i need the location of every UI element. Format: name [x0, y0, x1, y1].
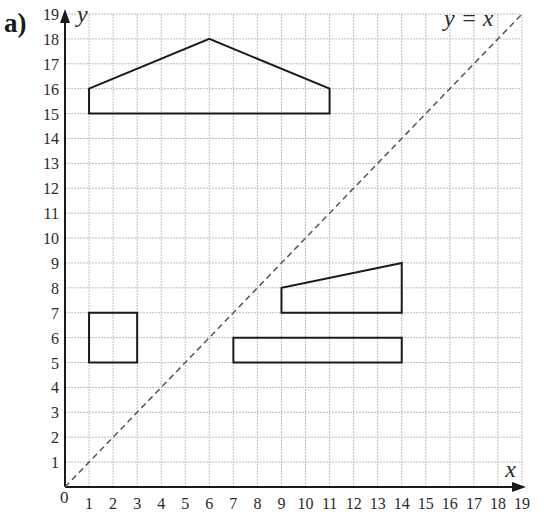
- y-tick-label: 11: [44, 205, 59, 222]
- y-tick-label: 2: [51, 429, 59, 446]
- x-tick-label: 1: [85, 495, 93, 512]
- y-axis-arrow-icon: [60, 9, 70, 23]
- x-tick-label: 7: [229, 495, 237, 512]
- x-axis-arrow-icon: [512, 482, 526, 492]
- dashed-diagonal-line: [65, 14, 522, 487]
- x-tick-label: 16: [442, 495, 458, 512]
- y-tick-label: 13: [43, 155, 59, 172]
- x-tick-label: 10: [298, 495, 314, 512]
- y-axis-label: y: [75, 1, 88, 27]
- x-tick-label: 12: [346, 495, 362, 512]
- y-tick-label: 6: [51, 330, 59, 347]
- x-tick-label: 15: [418, 495, 434, 512]
- y-tick-label: 16: [43, 81, 59, 98]
- y-tick-label: 17: [43, 56, 59, 73]
- y-tick-label: 5: [51, 355, 59, 372]
- x-axis-label: x: [504, 456, 516, 482]
- x-tick-label: 9: [277, 495, 285, 512]
- x-tick-label: 4: [157, 495, 165, 512]
- y-tick-label: 1: [51, 454, 59, 471]
- x-tick-label: 11: [322, 495, 337, 512]
- y-tick-label: 14: [43, 130, 59, 147]
- x-tick-label: 17: [466, 495, 482, 512]
- x-tick-label: 13: [370, 495, 386, 512]
- grid-lines: [65, 14, 522, 487]
- x-tick-label: 14: [394, 495, 410, 512]
- x-tick-label: 8: [253, 495, 261, 512]
- y-tick-label: 7: [51, 305, 59, 322]
- origin-label: 0: [60, 488, 69, 507]
- x-tick-label: 6: [205, 495, 213, 512]
- coordinate-grid-figure: 1234567891011121314151617181912345678910…: [0, 0, 544, 521]
- y-tick-label: 10: [43, 230, 59, 247]
- shapes: [89, 39, 402, 363]
- x-tick-label: 19: [514, 495, 530, 512]
- y-tick-label: 19: [43, 6, 59, 23]
- x-tick-label: 18: [490, 495, 506, 512]
- x-tick-label: 5: [181, 495, 189, 512]
- long-rectangle: [233, 338, 401, 363]
- y-tick-label: 9: [51, 255, 59, 272]
- x-tick-label: 3: [133, 495, 141, 512]
- x-tick-label: 2: [109, 495, 117, 512]
- y-tick-label: 4: [51, 379, 59, 396]
- line-label: y = x: [442, 5, 494, 31]
- y-tick-label: 15: [43, 106, 59, 123]
- y-equals-x-line: [65, 14, 522, 487]
- y-tick-label: 12: [43, 180, 59, 197]
- y-tick-label: 8: [51, 280, 59, 297]
- y-tick-label: 3: [51, 404, 59, 421]
- y-tick-label: 18: [43, 31, 59, 48]
